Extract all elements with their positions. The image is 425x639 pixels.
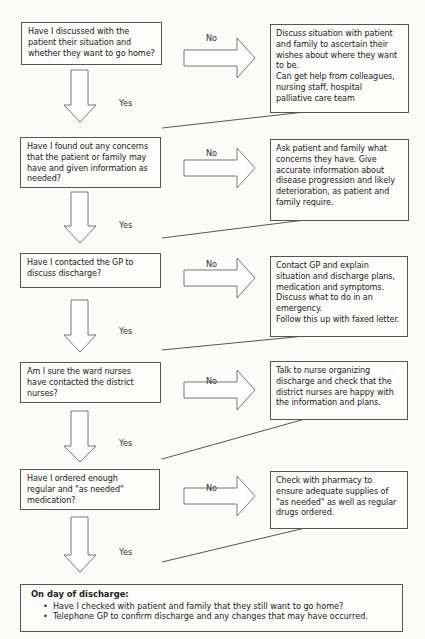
question-box-2: Have I found out any concerns that the p… <box>20 137 161 188</box>
connector-line <box>162 419 305 459</box>
yes-arrow-icon <box>64 300 96 352</box>
connector-line <box>162 220 305 238</box>
no-arrow-icon <box>184 148 255 188</box>
yes-label-3: Yes <box>119 326 132 336</box>
connector-line <box>162 336 305 350</box>
no-arrow-icon <box>184 38 255 78</box>
no-arrow-icon <box>184 258 255 298</box>
question-box-4: Am I sure the ward nurses have contacted… <box>20 362 161 403</box>
action-box-2: Ask patient and family what concerns the… <box>270 139 409 221</box>
connector-line <box>162 528 305 562</box>
no-label-1: No <box>206 33 217 43</box>
yes-arrow-icon <box>64 517 96 572</box>
yes-label-1: Yes <box>119 98 132 108</box>
discharge-day-box: On day of discharge: Have I checked with… <box>20 584 403 632</box>
no-label-4: No <box>206 376 217 386</box>
connector-line <box>162 112 305 128</box>
yes-label-5: Yes <box>119 547 132 557</box>
yes-label-4: Yes <box>119 438 132 448</box>
question-box-3: Have I contacted the GP to discuss disch… <box>20 253 161 288</box>
yes-label-2: Yes <box>119 220 132 230</box>
discharge-day-title: On day of discharge: <box>31 589 392 600</box>
action-box-1: Discuss situation with patient and famil… <box>270 24 409 113</box>
no-label-3: No <box>206 259 217 269</box>
list-item: Telephone GP to confirm discharge and an… <box>53 611 392 622</box>
no-arrow-icon <box>184 476 255 516</box>
yes-arrow-icon <box>64 192 96 243</box>
action-box-5: Check with pharmacy to ensure adequate s… <box>270 471 408 529</box>
list-item: Have I checked with patient and family t… <box>53 601 392 612</box>
discharge-day-list: Have I checked with patient and family t… <box>31 601 392 622</box>
question-box-5: Have I ordered enough regular and "as ne… <box>20 469 160 510</box>
no-label-5: No <box>206 483 217 493</box>
no-label-2: No <box>206 148 217 158</box>
no-arrow-icon <box>184 370 255 410</box>
action-box-4: Talk to nurse organizing discharge and c… <box>270 361 408 420</box>
yes-arrow-icon <box>64 70 96 122</box>
action-box-3: Contact GP and explain situation and dis… <box>270 256 408 337</box>
question-box-1: Have I discussed with the patient their … <box>21 22 162 65</box>
yes-arrow-icon <box>64 411 96 462</box>
